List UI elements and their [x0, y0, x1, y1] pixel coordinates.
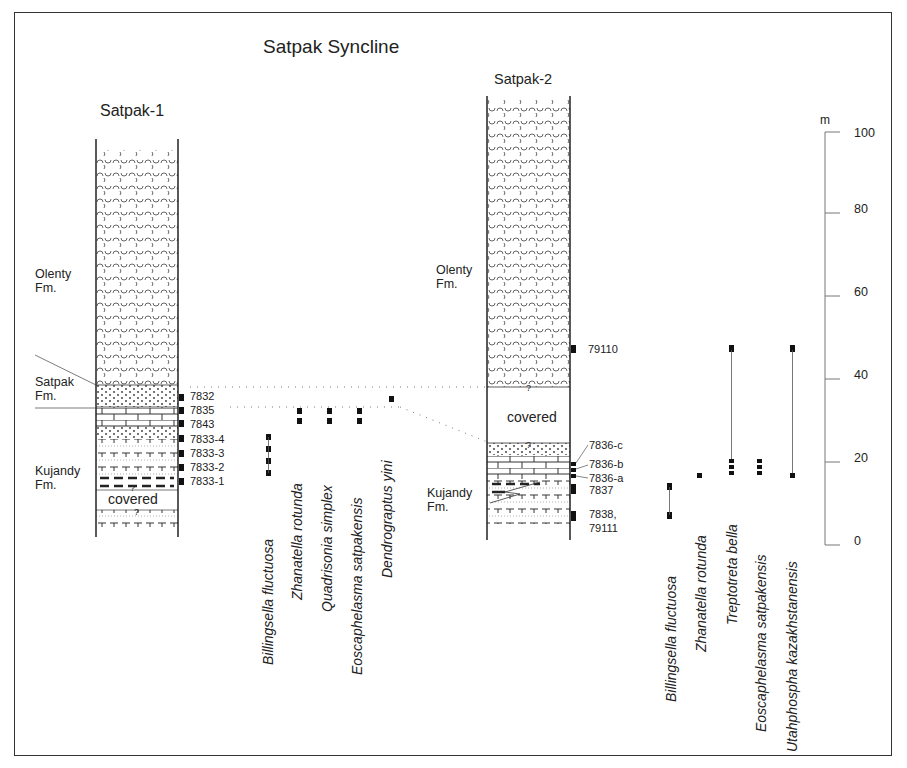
sample-label: 7843 [190, 418, 214, 430]
diagram-title: Satpak Syncline [263, 36, 399, 57]
sample-label: 7833-4 [190, 433, 224, 445]
species-labels-satpak-2: Billingsella fluctuosa Zhanatella rotund… [663, 524, 800, 752]
uncertain-mark: ? [526, 383, 531, 393]
species-label: Utahphospha kazakhstanensis [784, 561, 800, 752]
sample-label: 79111 [589, 522, 618, 534]
species-label: Eoscaphelasma satpakensis [753, 555, 769, 732]
species-label: Treptotreta bella [724, 524, 740, 625]
covered-label: covered [108, 491, 158, 507]
formation-suffix: Fm. [35, 478, 57, 492]
sample-label: 7838, [589, 508, 617, 520]
scale-tick-label: 40 [854, 368, 868, 382]
depth-scale: m 100 80 60 40 20 0 [820, 113, 875, 548]
species-label: Dendrograptus yini [379, 460, 395, 578]
uncertain-mark: ? [134, 507, 139, 517]
formation-olenty: Olenty [436, 263, 473, 277]
sample-label: 7833-2 [190, 461, 224, 473]
samples-satpak-1: 7832 7835 7843 7833-4 7833-3 7833-2 7833… [179, 390, 224, 487]
sample-label: 79110 [588, 343, 618, 355]
sample-label: 7837 [589, 484, 613, 496]
sample-label: 7836-c [589, 439, 623, 451]
sample-label: 7836-a [589, 472, 624, 484]
scale-tick-label: 0 [854, 534, 861, 548]
formation-kujandy: Kujandy [427, 486, 473, 500]
samples-satpak-2: 79110 7836-c 7836-b 7836-a 7837 7838, 79… [571, 343, 624, 534]
sample-label: 7833-3 [190, 447, 224, 459]
scale-tick-label: 100 [854, 126, 875, 140]
formation-suffix: Fm. [436, 277, 458, 291]
species-label: Quadrisonia simplex [319, 484, 335, 612]
formation-suffix: Fm. [427, 500, 449, 514]
formation-olenty: Olenty [35, 267, 72, 281]
formation-suffix: Fm. [35, 389, 57, 403]
species-label: Zhanatella rotunda [289, 483, 305, 601]
section-title-satpak-2: Satpak-2 [494, 71, 552, 87]
species-label: Zhanatella rotunda [693, 535, 709, 653]
section-title-satpak-1: Satpak-1 [100, 102, 164, 119]
column-satpak-2: covered ? ? [487, 96, 570, 540]
sample-label: 7836-b [589, 458, 623, 470]
correlation-line [400, 407, 490, 443]
scale-tick-label: 60 [854, 285, 868, 299]
sample-label: 7832 [190, 390, 214, 402]
scale-unit: m [820, 113, 830, 127]
covered-label: covered [507, 409, 557, 425]
scale-tick-label: 80 [854, 202, 868, 216]
formation-satpak: Satpak [35, 375, 75, 389]
ranges-satpak-1 [266, 396, 394, 476]
species-label: Billingsella fluctuosa [663, 576, 679, 702]
formation-suffix: Fm. [35, 281, 57, 295]
column-satpak-1: covered ? ? [96, 139, 178, 537]
species-label: Billingsella fluctuosa [260, 539, 276, 665]
uncertain-mark: ? [526, 440, 531, 450]
sample-label: 7835 [190, 404, 214, 416]
species-label: Eoscaphelasma satpakensis [349, 498, 365, 675]
stratigraphic-diagram: Satpak Syncline Satpak-1 covered ? ? Ole… [0, 0, 907, 768]
sample-label: 7833-1 [190, 475, 224, 487]
formation-kujandy: Kujandy [35, 464, 81, 478]
species-labels-satpak-1: Billingsella fluctuosa Zhanatella rotund… [260, 460, 395, 675]
ranges-satpak-2 [667, 345, 795, 519]
uncertain-mark: ? [130, 483, 135, 493]
scale-tick-label: 20 [854, 451, 868, 465]
